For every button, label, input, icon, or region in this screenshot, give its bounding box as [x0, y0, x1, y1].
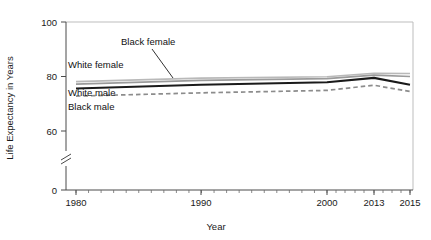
x-axis-title: Year — [206, 221, 225, 232]
series-label-white-female: White female — [68, 59, 123, 70]
series-label-black-male: Black male — [68, 101, 114, 112]
y-tick-label: 80 — [46, 71, 57, 82]
y-tick-label: 0 — [52, 185, 57, 196]
x-tick-label: 2000 — [316, 197, 337, 208]
y-tick-label: 100 — [41, 17, 57, 28]
y-axis-title: Life Expectancy in Years — [4, 56, 15, 160]
x-tick-label: 1990 — [190, 197, 211, 208]
x-tick-label: 1980 — [65, 197, 86, 208]
y-tick-label: 60 — [46, 126, 57, 137]
series-label-black-female: Black female — [121, 36, 175, 47]
x-tick-label: 2013 — [363, 197, 384, 208]
black-female-leader-line — [152, 49, 173, 78]
chart-canvas: 0608010019801990200020132015Black female… — [0, 0, 431, 240]
life-expectancy-chart: 0608010019801990200020132015Black female… — [0, 0, 431, 240]
x-tick-label: 2015 — [399, 197, 420, 208]
series-label-white-male: White male — [68, 87, 116, 98]
